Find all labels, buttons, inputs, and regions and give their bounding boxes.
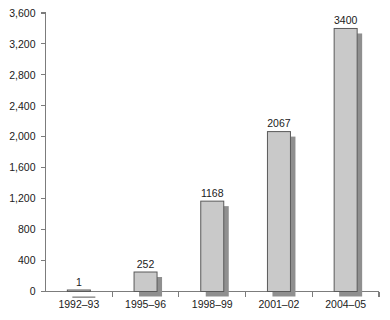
y-axis-ticks: 04008001,2001,6002,0002,4002,8003,2003,6… <box>9 7 45 298</box>
y-tick-label: 800 <box>18 223 36 235</box>
y-tick-label: 2,000 <box>9 130 35 142</box>
bars <box>67 28 362 297</box>
chart-canvas: 04008001,2001,6002,0002,4002,8003,2003,6… <box>0 0 390 320</box>
y-tick-label: 1,600 <box>9 161 35 173</box>
y-tick-label: 3,600 <box>9 7 35 19</box>
y-tick-label: 3,200 <box>9 38 35 50</box>
y-tick-label: 400 <box>18 254 36 266</box>
x-axis-category-label: 1998–99 <box>192 298 233 310</box>
bar[interactable] <box>134 272 157 291</box>
bar[interactable] <box>267 132 290 292</box>
y-tick-label: 2,400 <box>9 100 35 112</box>
bar-value-label: 252 <box>137 258 155 270</box>
bar[interactable] <box>201 201 224 291</box>
x-axis-category-label: 1995–96 <box>125 298 166 310</box>
y-tick-label: 1,200 <box>9 192 35 204</box>
x-axis-category-labels: 1992–931995–961998–992001–022004–05 <box>58 298 366 310</box>
y-tick-label: 0 <box>30 285 36 297</box>
bar-value-label: 3400 <box>334 14 358 26</box>
x-axis-category-label: 2001–02 <box>259 298 300 310</box>
bar-chart: 04008001,2001,6002,0002,4002,8003,2003,6… <box>0 0 390 320</box>
bar[interactable] <box>334 28 357 291</box>
y-tick-label: 2,800 <box>9 69 35 81</box>
x-axis-category-label: 2004–05 <box>325 298 366 310</box>
x-axis-category-label: 1992–93 <box>58 298 99 310</box>
bar-value-label: 1168 <box>201 187 224 199</box>
bar[interactable] <box>67 290 90 292</box>
bar-value-label: 1 <box>76 276 82 288</box>
bar-value-label: 2067 <box>267 117 291 129</box>
